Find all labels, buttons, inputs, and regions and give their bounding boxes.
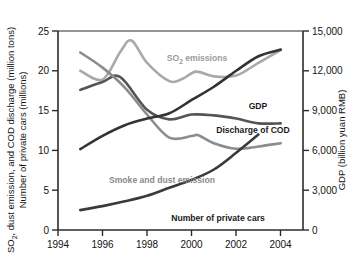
y-axis-ticks-right — [303, 31, 309, 230]
y-axis-ticks-left — [52, 31, 58, 230]
series-line-number-of-private-cars — [80, 134, 258, 210]
x-ticklabel-2002: 2002 — [225, 239, 248, 250]
x-ticklabel-2000: 2000 — [180, 239, 203, 250]
gdp-label: GDP — [249, 101, 268, 111]
y-axis-title-left-post: , dust emission, and COD discharge (mill… — [5, 27, 16, 236]
y-ticklabel-15: 15 — [38, 105, 50, 116]
y-axis-title-left: SO2, dust emission, and COD discharge (m… — [5, 27, 28, 253]
y2-ticklabel-9000: 9,000 — [312, 105, 337, 116]
y-ticklabel-25: 25 — [38, 26, 50, 37]
x-ticklabel-1996: 1996 — [91, 239, 114, 250]
y-ticklabel-5: 5 — [43, 185, 49, 196]
smoke-label: Smoke and dust emission — [109, 175, 215, 185]
x-ticklabel-1994: 1994 — [47, 239, 70, 250]
x-ticklabel-1998: 1998 — [136, 239, 159, 250]
series-line-discharge-of-cod — [80, 76, 280, 124]
y-axis-ticklabels-left: 25 20 15 10 5 0 — [38, 26, 50, 236]
y-axis-title-left-pre: SO — [5, 239, 16, 253]
y-ticklabel-10: 10 — [38, 145, 50, 156]
line-chart: SO2, dust emission, and COD discharge (m… — [0, 0, 354, 277]
y-axis-title-right: GDP (billion yuan RMB) — [336, 90, 347, 191]
x-axis-ticks — [58, 230, 281, 236]
chart-container: SO2, dust emission, and COD discharge (m… — [0, 0, 354, 277]
y2-ticklabel-0: 0 — [312, 225, 318, 236]
cod-label: Discharge of COD — [216, 125, 290, 135]
y-axis-title-left-line2: Number of private cars (millions) — [17, 72, 28, 209]
y2-ticklabel-6000: 6,000 — [312, 145, 337, 156]
y-ticklabel-0: 0 — [43, 225, 49, 236]
y2-ticklabel-12000: 12,000 — [312, 65, 343, 76]
y-ticklabel-20: 20 — [38, 65, 50, 76]
cars-label: Number of private cars — [171, 213, 265, 223]
x-ticklabel-2004: 2004 — [269, 239, 292, 250]
y2-ticklabel-15000: 15,000 — [312, 26, 343, 37]
x-axis-ticklabels: 1994 1996 1998 2000 2002 2004 — [47, 239, 292, 250]
so2-label: SO2 emissions — [167, 53, 228, 65]
y2-ticklabel-3000: 3,000 — [312, 185, 337, 196]
